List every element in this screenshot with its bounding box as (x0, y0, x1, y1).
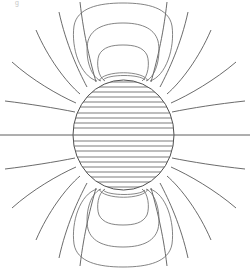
north-pole-cap-inner (103, 76, 145, 81)
figure-canvas: g (0, 0, 250, 268)
bottom-loop-middle (87, 189, 159, 247)
top-loop-middle (87, 23, 159, 81)
dipole-field-diagram (0, 0, 250, 268)
corner-artifact-mark: g (15, 0, 19, 6)
south-pole-cap-inner (103, 190, 145, 195)
top-loop-outer (73, 3, 172, 81)
open-field-lines-upper-right (151, 2, 245, 112)
open-field-lines-lower-left (5, 158, 96, 266)
closed-loops-top (73, 3, 172, 81)
closed-loops-bottom (73, 189, 172, 267)
open-field-lines-lower-right (151, 158, 245, 266)
bottom-loop-outer (73, 189, 172, 267)
open-field-lines-upper-left (5, 2, 96, 112)
